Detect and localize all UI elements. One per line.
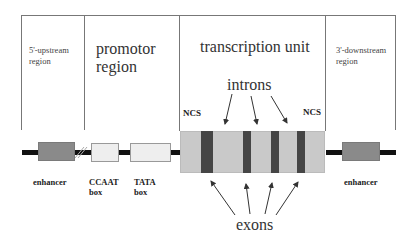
intron-arrow-icons bbox=[225, 94, 287, 124]
exon-arrow-icons bbox=[211, 181, 298, 215]
arrows-layer bbox=[0, 0, 418, 241]
